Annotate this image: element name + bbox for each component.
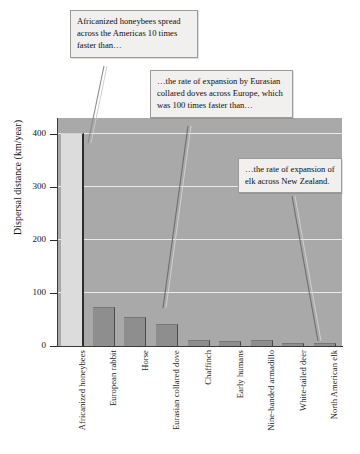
bar xyxy=(61,133,84,346)
callout-collared-doves: …the rate of expansion by Eurasian colla… xyxy=(150,70,293,118)
bar xyxy=(156,324,178,346)
y-axis-line xyxy=(57,118,58,347)
callout-elk: …the rate of expansion of elk across New… xyxy=(238,158,342,193)
y-tick-label: 200 xyxy=(0,235,46,244)
x-tick-label: Nine-banded armadillo xyxy=(266,350,276,431)
x-axis-line xyxy=(57,346,343,347)
gridline-200 xyxy=(58,239,342,240)
y-tick-mark xyxy=(50,346,57,347)
y-tick-label: 300 xyxy=(0,182,46,191)
bar xyxy=(93,307,115,346)
chart-figure: 4003002001000 Dispersal distance (km/yea… xyxy=(0,0,360,454)
x-tick-label: Horse xyxy=(140,350,150,371)
y-tick-label: 400 xyxy=(0,129,46,138)
y-axis-title: Dispersal distance (km/year) xyxy=(12,98,23,258)
callout-honeybees: Africanized honeybees spread across the … xyxy=(70,10,198,58)
x-tick-label: Early humans xyxy=(235,350,245,398)
x-tick-label: Chaffinch xyxy=(203,350,213,385)
y-tick-mark xyxy=(50,293,57,294)
y-tick-mark xyxy=(50,134,57,135)
y-tick-label: 100 xyxy=(0,288,46,297)
bar xyxy=(124,317,146,346)
y-tick-mark xyxy=(50,240,57,241)
x-tick-label: North American elk xyxy=(329,350,339,419)
x-tick-label: White-tailed deer xyxy=(298,350,308,411)
plot-area xyxy=(58,118,342,346)
x-tick-label: Eurasian collared dove xyxy=(171,350,181,430)
gridline-400 xyxy=(58,133,342,134)
y-tick-label: 0 xyxy=(0,341,46,350)
x-tick-label: Africanized honeybees xyxy=(77,350,87,430)
y-tick-mark xyxy=(50,187,57,188)
x-tick-label: European rabbit xyxy=(108,350,118,406)
gridline-100 xyxy=(58,292,342,293)
